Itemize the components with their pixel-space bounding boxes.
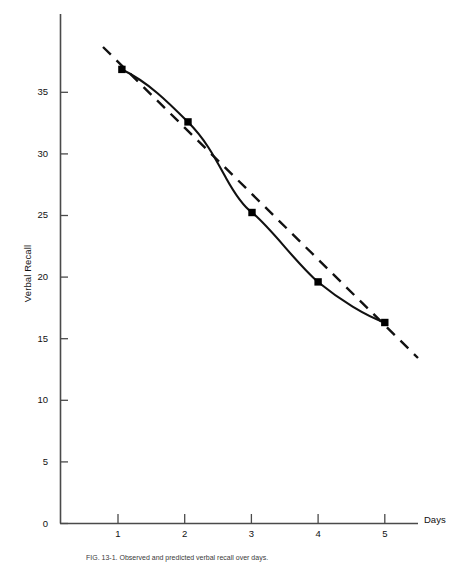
chart-canvas	[0, 0, 473, 563]
data-point-day-4	[314, 278, 321, 285]
x-tick-label-5: 5	[373, 528, 397, 539]
figure-caption: FIG. 13-1. Observed and predicted verbal…	[86, 553, 446, 562]
y-tick-marks	[61, 92, 69, 523]
x-tick-label-3: 3	[239, 528, 263, 539]
x-tick-label-4: 4	[306, 528, 330, 539]
y-tick-label-15: 15	[18, 333, 48, 344]
y-tick-label-35: 35	[18, 86, 48, 97]
x-axis-title: Days	[424, 514, 446, 525]
y-tick-label-5: 5	[18, 456, 48, 467]
x-tick-label-1: 1	[106, 528, 130, 539]
data-point-day-1	[118, 66, 125, 73]
x-tick-marks	[118, 514, 385, 524]
data-point-day-2	[184, 118, 191, 125]
y-axis-title: Verbal Recall	[22, 219, 33, 329]
figure-verbal-recall: 0 5 10 15 20 25 30 35 1 2 3 4 5 Verbal R…	[0, 0, 473, 563]
trend-line-dashed	[103, 47, 418, 358]
y-tick-label-30: 30	[18, 148, 48, 159]
data-point-day-5	[381, 319, 388, 326]
data-point-day-3	[248, 209, 255, 216]
x-tick-label-2: 2	[173, 528, 197, 539]
y-tick-label-10: 10	[18, 394, 48, 405]
y-tick-label-0: 0	[18, 518, 48, 529]
